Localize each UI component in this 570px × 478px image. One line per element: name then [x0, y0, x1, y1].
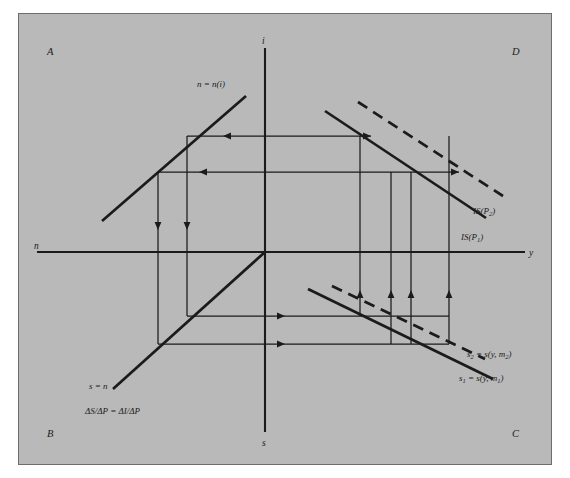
axis-label-n: n [34, 241, 39, 251]
axis-label-s: s [262, 438, 266, 448]
saving-curve-s1 [308, 289, 493, 379]
axis-label-i: i [262, 36, 265, 46]
quadrant-label-b: B [47, 428, 54, 439]
investment-curve-label: n = n(i) [197, 79, 225, 89]
arrowhead-riser-c-1 [388, 290, 395, 298]
arrowhead-riser-c-2 [408, 290, 415, 298]
label-group: A B C D i s n y n = n(i) s = n ΔS/ΔP = Δ… [34, 36, 534, 448]
arrowhead-riser-c-3 [446, 290, 453, 298]
arrowhead-a-upper [223, 133, 231, 140]
quadrant-b-group [113, 252, 449, 389]
quadrant-d-group [265, 102, 503, 252]
is-curve-p1-label: IS(P1) [460, 232, 483, 243]
quadrant-label-a: A [46, 46, 54, 57]
forty-five-line-label: s = n [89, 381, 108, 391]
arrowhead-a-lower [199, 169, 207, 176]
identity-label: ΔS/ΔP = ΔI/ΔP [84, 406, 141, 416]
arrowhead-d-lower [451, 169, 459, 176]
quadrant-label-c: C [512, 428, 520, 439]
arrowhead-drop-a-left [155, 222, 162, 230]
saving-curve-s2-label: s2 = s(y, m2) [467, 349, 512, 360]
four-quadrant-diagram: A B C D i s n y n = n(i) s = n ΔS/ΔP = Δ… [19, 14, 551, 464]
investment-curve [102, 96, 246, 221]
axis-group [37, 48, 525, 432]
arrowhead-riser-c-4 [357, 290, 364, 298]
forty-five-degree-line [113, 252, 265, 389]
arrowhead-b-upper [277, 313, 285, 320]
arrowhead-drop-a-right [184, 222, 191, 230]
figure-container: A B C D i s n y n = n(i) s = n ΔS/ΔP = Δ… [0, 0, 570, 478]
figure-plate: A B C D i s n y n = n(i) s = n ΔS/ΔP = Δ… [18, 13, 552, 465]
quadrant-a-group [102, 96, 265, 252]
saving-curve-s1-label: s1 = s(y, m1) [459, 373, 504, 384]
arrowhead-b-lower [277, 341, 285, 348]
is-curve-p2-label: IS(P2) [472, 206, 495, 217]
is-curve-p1 [325, 111, 486, 218]
axis-label-y: y [528, 248, 534, 258]
quadrant-label-d: D [511, 46, 520, 57]
